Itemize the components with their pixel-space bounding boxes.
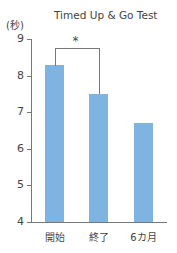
y-tick (27, 76, 31, 77)
y-tick-label: 7 (10, 106, 24, 118)
bracket-leg (99, 48, 100, 94)
x-tick-label: 終了 (79, 229, 119, 244)
y-tick (27, 112, 31, 113)
y-tick (27, 185, 31, 186)
y-tick-label: 6 (10, 143, 24, 155)
chart-title: Timed Up & Go Test (54, 9, 158, 21)
x-tick-label: 6カ月 (124, 229, 164, 244)
y-tick (27, 39, 31, 40)
y-axis-unit: (秒) (6, 17, 24, 32)
significance-bracket (55, 48, 100, 66)
y-tick-label: 5 (10, 179, 24, 191)
y-tick-label: 8 (10, 70, 24, 82)
y-axis (31, 39, 32, 222)
bar (89, 94, 108, 222)
y-tick (27, 222, 31, 223)
bar (45, 65, 64, 222)
x-tick-label: 開始 (35, 229, 75, 244)
significance-marker: * (73, 34, 79, 48)
y-tick-label: 9 (10, 33, 24, 45)
y-tick (27, 149, 31, 150)
x-axis (31, 222, 167, 223)
y-tick-label: 4 (10, 216, 24, 228)
bar (134, 123, 153, 222)
